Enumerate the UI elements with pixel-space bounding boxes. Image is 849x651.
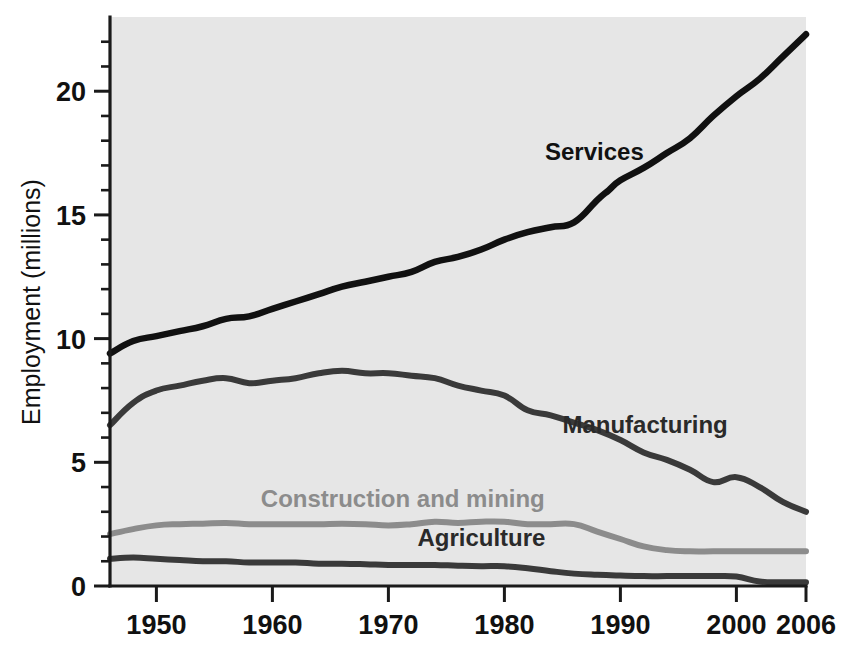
series-label-services: Services [545,138,644,165]
x-tick-label: 1950 [126,610,186,640]
y-axis-title: Employment (millions) [17,179,45,425]
series-label-agriculture: Agriculture [417,524,545,551]
x-tick-label: 2006 [776,610,836,640]
y-tick-label: 0 [71,572,86,602]
x-tick-label: 1960 [242,610,302,640]
y-tick-label: 20 [56,77,86,107]
x-tick-label: 1970 [358,610,418,640]
y-tick-label: 15 [56,201,86,231]
x-tick-label: 2000 [706,610,766,640]
chart-page: 051015201950196019701980199020002006 Ser… [0,0,849,651]
employment-line-chart: 051015201950196019701980199020002006 Ser… [0,0,849,651]
x-tick-label: 1990 [590,610,650,640]
series-label-construction-and-mining: Construction and mining [261,485,545,512]
y-tick-label: 5 [71,448,86,478]
x-tick-label: 1980 [474,610,534,640]
y-tick-label: 10 [56,325,86,355]
series-label-manufacturing: Manufacturing [562,411,727,438]
